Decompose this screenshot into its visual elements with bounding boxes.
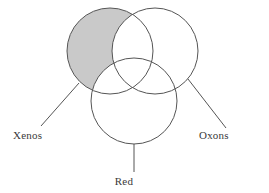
venn-diagram-figure: Xenos Oxons Red (0, 0, 269, 193)
leader-line-oxons (188, 79, 226, 128)
venn-diagram-canvas: Xenos Oxons Red (0, 0, 269, 193)
set-label-xenos: Xenos (13, 129, 42, 141)
set-label-oxons: Oxons (199, 129, 229, 141)
leader-line-xenos (41, 83, 79, 126)
set-label-red: Red (115, 175, 134, 187)
